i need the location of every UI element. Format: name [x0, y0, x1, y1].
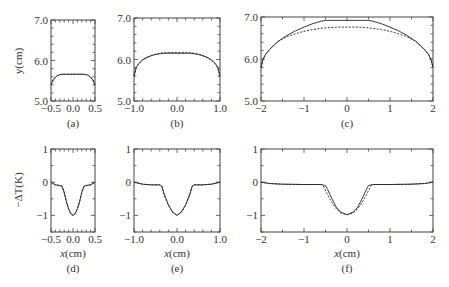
x-tick-label: 0.0	[66, 233, 80, 245]
series-solid	[261, 182, 433, 215]
y-tick-label: 0	[253, 176, 259, 188]
y-tick-label: 5.0	[34, 95, 48, 107]
panel-label: (c)	[341, 117, 354, 130]
x-tick-label: 1	[387, 102, 393, 114]
y-tick-label: −1	[36, 209, 48, 221]
series-dashed	[261, 27, 433, 67]
y-tick-label: 7.0	[34, 14, 48, 26]
y-tick-label: 5.0	[244, 95, 258, 107]
x-tick-label: −0.5	[41, 233, 61, 245]
x-tick-label: −1.0	[124, 233, 144, 245]
x-tick-label: 2	[430, 233, 436, 245]
series-dashed	[134, 182, 220, 215]
panel-d: −0.50.00.5−101x(cm)(d)	[36, 143, 102, 275]
x-tick-label: 0	[344, 102, 350, 114]
x-tick-label: 0.0	[66, 102, 80, 114]
x-tick-label: 0	[344, 233, 350, 245]
y-tick-label: 6.0	[117, 54, 131, 66]
x-tick-label: 1.0	[213, 233, 227, 245]
figure: y(cm) −ΔT(K) −0.50.00.55.06.07.0(a) −1.0…	[0, 0, 449, 287]
series-dashed	[134, 52, 220, 76]
plot-frame	[51, 149, 95, 232]
y-axis-label-bottom: −ΔT(K)	[12, 172, 25, 208]
x-tick-label: 0.5	[88, 102, 102, 114]
panel-label: (b)	[171, 117, 184, 130]
series-dashed	[261, 182, 433, 215]
x-tick-label: −2	[255, 233, 267, 245]
plot-frame	[51, 20, 95, 101]
panel-f: −2−1012−101x(cm)(f)	[246, 143, 435, 275]
x-tick-label: 2	[430, 102, 436, 114]
series-dashed	[51, 182, 95, 215]
y-axis-label-top: y(cm)	[12, 48, 25, 75]
plot-frame	[134, 149, 220, 232]
x-axis-label: x(cm)	[59, 247, 86, 260]
panel-label: (f)	[342, 262, 353, 275]
y-tick-label: 7.0	[244, 11, 258, 23]
series-solid	[51, 182, 95, 215]
y-tick-label: −1	[246, 209, 258, 221]
panel-a: −0.50.00.55.06.07.0(a)	[34, 14, 102, 130]
panel-label: (d)	[67, 262, 80, 275]
x-tick-label: 1.0	[213, 102, 227, 114]
plot-frame	[261, 149, 433, 232]
y-tick-label: 7.0	[117, 12, 131, 24]
panel-c: −2−10125.06.07.0(c)	[244, 11, 436, 130]
panel-label: (e)	[171, 262, 184, 275]
series-dashed	[51, 74, 95, 85]
x-axis-label: x(cm)	[163, 247, 190, 260]
y-tick-label: 5.0	[117, 95, 131, 107]
y-tick-label: 1	[43, 143, 49, 155]
x-tick-label: 0.5	[88, 233, 102, 245]
y-tick-label: 1	[126, 143, 132, 155]
x-tick-label: −1	[298, 233, 310, 245]
x-tick-label: 1	[387, 233, 393, 245]
x-tick-label: −1	[298, 102, 310, 114]
plot-frame	[134, 18, 220, 101]
panel-e: −1.00.01.0−101x(cm)(e)	[119, 143, 227, 275]
y-tick-label: 0	[126, 176, 132, 188]
series-solid	[134, 53, 220, 76]
y-tick-label: 6.0	[34, 55, 48, 67]
x-tick-label: 0.0	[170, 102, 184, 114]
y-tick-label: −1	[119, 209, 131, 221]
x-tick-label: 0.0	[170, 233, 184, 245]
panel-b: −1.00.01.05.06.07.0(b)	[117, 12, 227, 130]
y-tick-label: 6.0	[244, 53, 258, 65]
plot-frame	[261, 17, 433, 101]
series-solid	[134, 182, 220, 215]
y-tick-label: 0	[43, 176, 49, 188]
x-axis-label: x(cm)	[333, 247, 360, 260]
panel-label: (a)	[67, 117, 80, 130]
y-tick-label: 1	[253, 143, 259, 155]
